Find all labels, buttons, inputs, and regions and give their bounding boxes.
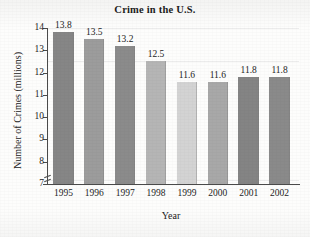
bar xyxy=(115,46,135,184)
y-tick-label: 14 xyxy=(35,22,45,33)
chart-title: Crime in the U.S. xyxy=(0,4,310,15)
y-tick-label: 8 xyxy=(39,156,44,167)
bar-group: 13.21997 xyxy=(115,28,135,184)
bar-group: 12.51998 xyxy=(146,28,166,184)
x-tick-label: 2001 xyxy=(239,188,258,199)
x-tick-label: 1997 xyxy=(116,188,135,199)
bar-value-label: 13.2 xyxy=(117,34,134,45)
bar-group: 11.82002 xyxy=(269,28,289,184)
bar-group: 13.81995 xyxy=(53,28,73,184)
y-tick-label: 13 xyxy=(35,44,45,55)
bar xyxy=(269,77,289,184)
y-axis-title: Number of Crimes (millions) xyxy=(12,36,23,186)
plot-area: 7891011121314 13.8199513.5199613.2199712… xyxy=(47,28,295,185)
bar-value-label: 11.6 xyxy=(179,70,195,81)
x-tick-label: 2000 xyxy=(208,188,227,199)
x-axis-line xyxy=(47,184,300,185)
x-tick-label: 1998 xyxy=(147,188,166,199)
bar-series: 13.8199513.5199613.2199712.5199811.61999… xyxy=(48,28,295,184)
bar xyxy=(53,32,73,184)
bar xyxy=(146,61,166,184)
bar-value-label: 13.8 xyxy=(55,20,72,31)
bar-group: 13.51996 xyxy=(84,28,104,184)
bar-group: 11.82001 xyxy=(238,28,258,184)
bar xyxy=(177,82,197,185)
bar xyxy=(208,82,228,185)
bar-value-label: 13.5 xyxy=(86,27,103,38)
x-tick-label: 1996 xyxy=(85,188,104,199)
bar-group: 11.62000 xyxy=(208,28,228,184)
x-axis-title: Year xyxy=(47,210,295,221)
bar-group: 11.61999 xyxy=(177,28,197,184)
chart-figure: Crime in the U.S. Number of Crimes (mill… xyxy=(0,0,310,237)
x-tick-label: 1999 xyxy=(177,188,196,199)
y-tick-label: 9 xyxy=(39,133,44,144)
y-tick-label: 10 xyxy=(35,111,45,122)
y-tick-label: 12 xyxy=(35,67,45,78)
bar xyxy=(238,77,258,184)
bar-value-label: 11.8 xyxy=(241,65,257,76)
x-tick-label: 1995 xyxy=(54,188,73,199)
y-tick-label: 11 xyxy=(35,89,44,100)
bar-value-label: 11.6 xyxy=(210,70,226,81)
bar xyxy=(84,39,104,184)
bar-value-label: 12.5 xyxy=(148,49,165,60)
bar-value-label: 11.8 xyxy=(271,65,287,76)
x-tick-label: 2002 xyxy=(270,188,289,199)
